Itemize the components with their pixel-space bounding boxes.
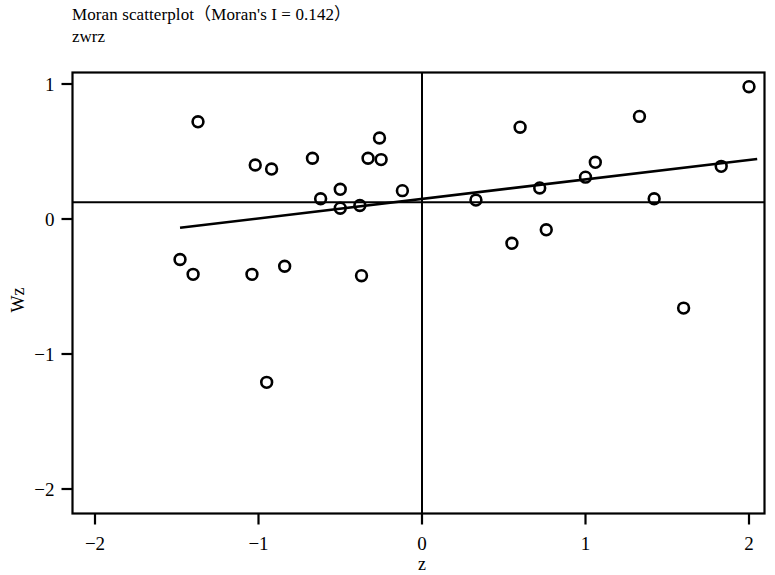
data-point: [307, 153, 318, 164]
data-point: [580, 172, 591, 183]
data-point: [397, 185, 408, 196]
data-point: [247, 269, 258, 280]
data-point: [590, 157, 601, 168]
x-tick-label-2: 0: [417, 533, 427, 554]
data-point: [507, 238, 518, 249]
data-point: [279, 261, 290, 272]
y-axis-title: Wz: [8, 288, 28, 313]
data-point: [376, 154, 387, 165]
data-point: [744, 81, 755, 92]
x-tick-label-1: −1: [248, 533, 268, 554]
x-axis-tick-labels: −2−1012: [85, 533, 754, 554]
x-tick-label-3: 1: [581, 533, 591, 554]
data-point: [515, 122, 526, 133]
data-point: [541, 224, 552, 235]
y-axis-ticks: [62, 84, 73, 489]
y-tick-label-2: −1: [34, 344, 54, 365]
data-point: [356, 270, 367, 281]
x-tick-label-4: 2: [744, 533, 754, 554]
data-point: [261, 377, 272, 388]
data-points: [175, 81, 755, 387]
x-tick-label-0: −2: [85, 533, 105, 554]
data-point: [471, 195, 482, 206]
data-point: [363, 153, 374, 164]
data-point: [634, 111, 645, 122]
moran-scatterplot-figure: Moran scatterplot（Moran's I = 0.142） zwr…: [0, 0, 775, 575]
data-point: [266, 164, 277, 175]
x-axis-title: z: [418, 554, 426, 574]
y-tick-label-1: 0: [45, 209, 55, 230]
data-point: [335, 184, 346, 195]
plot-area: −2−1012 10−1−2 z Wz: [0, 0, 775, 575]
data-point: [188, 269, 199, 280]
data-point: [175, 254, 186, 265]
plot-frame: [73, 73, 765, 514]
data-point: [678, 303, 689, 314]
x-axis-ticks: [95, 514, 749, 525]
y-tick-label-3: −2: [34, 479, 54, 500]
data-point: [193, 116, 204, 127]
y-axis-tick-labels: 10−1−2: [34, 74, 54, 500]
data-point: [374, 133, 385, 144]
y-tick-label-0: 1: [45, 74, 55, 95]
data-point: [250, 160, 261, 171]
